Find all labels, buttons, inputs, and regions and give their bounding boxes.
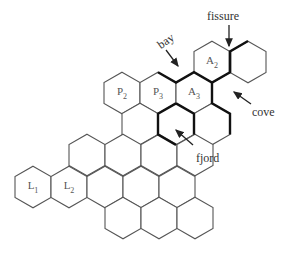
hex-label: P2 <box>117 85 127 100</box>
hex-label: L2 <box>64 179 75 194</box>
annotation-fjord: fjord <box>196 152 219 164</box>
annotation-fissure: fissure <box>207 10 239 22</box>
hex-label: L1 <box>28 179 39 194</box>
annotation-cove: cove <box>252 106 275 118</box>
hex-diagram: A2P2P3A3L1L2fissurebaycovefjord <box>0 0 289 253</box>
hex-grid <box>0 0 289 253</box>
hex-label: A3 <box>188 85 200 100</box>
cove-arrow-icon <box>234 92 251 104</box>
hex-label: A2 <box>206 54 218 69</box>
hex-label: P3 <box>153 85 163 100</box>
bay-arrow-icon <box>166 50 178 66</box>
